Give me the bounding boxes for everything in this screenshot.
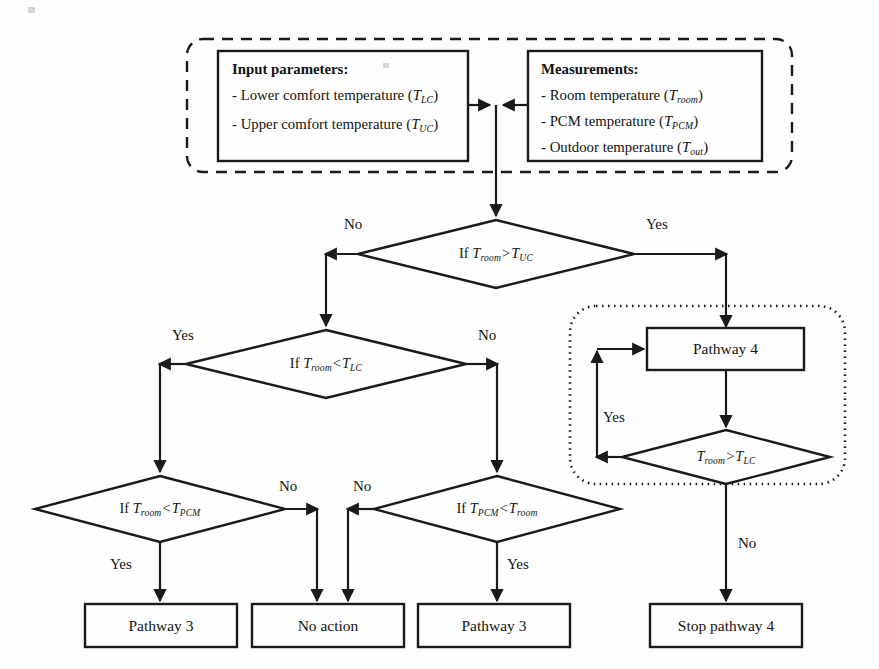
input-parameters-title: Input parameters:	[232, 62, 348, 77]
measurements-line-3-sub: out	[690, 146, 703, 157]
measurements-line-2-sub: PCM	[672, 120, 693, 131]
edge-label-d5-no: No	[738, 535, 756, 552]
measurements-line-2: - PCM temperature (TPCM)	[541, 114, 698, 131]
edge-label-d4-yes: Yes	[507, 556, 529, 573]
measurements-line-2-var: T	[664, 113, 672, 129]
measurements-line-1-var: T	[669, 87, 677, 103]
measurements-line-3-var: T	[682, 139, 690, 155]
input-parameters-line-1: - Lower comfort temperature (TLC)	[232, 88, 438, 105]
terminal-no-action-border	[252, 604, 404, 647]
input-parameters-line-2-prefix: - Upper comfort temperature (	[232, 116, 411, 132]
scan-speck-input-title	[383, 63, 389, 68]
edge-label-d1-yes: Yes	[646, 216, 668, 233]
decision-room-lt-pcm-shape	[35, 476, 285, 542]
decision-room-lt-lc-shape	[186, 330, 466, 398]
edge-label-d4-no: No	[353, 478, 371, 495]
input-parameters-line-2-suffix: )	[433, 116, 438, 132]
input-parameters-line-1-suffix: )	[433, 87, 438, 103]
decision-room-gt-uc-shape	[358, 220, 634, 288]
terminal-stop-pathway-4-border	[650, 604, 802, 647]
measurements-line-3-suffix: )	[703, 139, 708, 155]
input-parameters-line-1-sub: LC	[421, 94, 433, 105]
input-parameters-line-2: - Upper comfort temperature (TUC)	[232, 117, 438, 134]
measurements-line-2-suffix: )	[693, 113, 698, 129]
input-parameters-line-1-var: T	[413, 87, 421, 103]
terminal-pathway-3-right-border	[418, 604, 570, 647]
measurements-title: Measurements:	[541, 62, 639, 77]
edge-label-d2-yes: Yes	[172, 327, 194, 344]
process-pathway-4-border	[647, 328, 804, 370]
measurements-line-3: - Outdoor temperature (Tout)	[541, 140, 708, 157]
measurements-line-1-prefix: - Room temperature (	[541, 87, 669, 103]
measurements-line-1-sub: room	[677, 94, 698, 105]
edge-label-d5-yes: Yes	[603, 409, 625, 426]
measurements-line-3-prefix: - Outdoor temperature (	[541, 139, 682, 155]
input-parameters-line-1-prefix: - Lower comfort temperature (	[232, 87, 413, 103]
measurements-line-2-prefix: - PCM temperature (	[541, 113, 664, 129]
decision-room-gt-lc-loop-shape	[622, 430, 830, 484]
measurements-line-1-suffix: )	[698, 87, 703, 103]
flowchart-canvas: Input parameters: - Lower comfort temper…	[0, 0, 879, 669]
edge-label-d1-no: No	[344, 216, 362, 233]
edge-label-d3-yes: Yes	[110, 556, 132, 573]
edge-label-d2-no: No	[478, 327, 496, 344]
decision-pcm-lt-room-shape	[374, 476, 620, 542]
terminal-pathway-3-left-border	[85, 604, 237, 647]
edge-label-d3-no: No	[279, 478, 297, 495]
input-parameters-line-2-sub: UC	[419, 123, 433, 134]
measurements-line-1: - Room temperature (Troom)	[541, 88, 703, 105]
